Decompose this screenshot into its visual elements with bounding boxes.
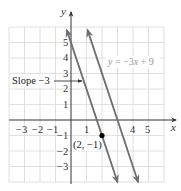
x-tick-label: −2 [32, 124, 43, 135]
y-tick-label: 4 [63, 52, 69, 63]
y-tick-label: −3 [57, 161, 68, 172]
x-tick-label: −3 [16, 124, 27, 135]
x-axis-label: x [170, 121, 176, 133]
line-through-point [67, 30, 118, 182]
y-axis-label: y [60, 5, 66, 17]
x-tick-label: 5 [145, 124, 150, 135]
coordinate-plane: x y −3 −2 −1 1 4 5 5 4 3 2 1 −1 −2 −3 y … [0, 0, 181, 191]
y-tick-label: 2 [63, 83, 68, 94]
y-tick-label: 3 [63, 68, 68, 79]
y-tick-label: −1 [57, 130, 68, 141]
y-tick-label: 5 [63, 37, 68, 48]
point-marker [99, 133, 104, 138]
grid [9, 27, 164, 182]
x-tick-label: 4 [130, 124, 136, 135]
y-tick-label: −2 [57, 146, 68, 157]
slope-label: Slope −3 [12, 75, 50, 86]
line-y-equals-minus3x-plus9 [88, 30, 139, 182]
y-tick-label: 1 [63, 99, 68, 110]
x-tick-label: 1 [84, 124, 89, 135]
point-label: (2, −1) [73, 139, 102, 151]
equation-label: y = −3x + 9 [107, 56, 154, 67]
